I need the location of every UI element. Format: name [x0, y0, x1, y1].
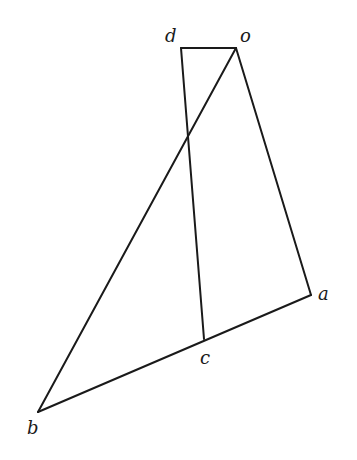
label-d: d [165, 25, 177, 46]
label-a: a [318, 283, 329, 304]
segment-a-b [38, 295, 311, 412]
diagram-canvas: d o a c b [0, 0, 357, 460]
label-b: b [27, 417, 39, 438]
label-c: c [200, 347, 210, 368]
label-o: o [240, 25, 251, 46]
segment-d-c [181, 48, 204, 339]
segment-o-a [236, 48, 311, 295]
